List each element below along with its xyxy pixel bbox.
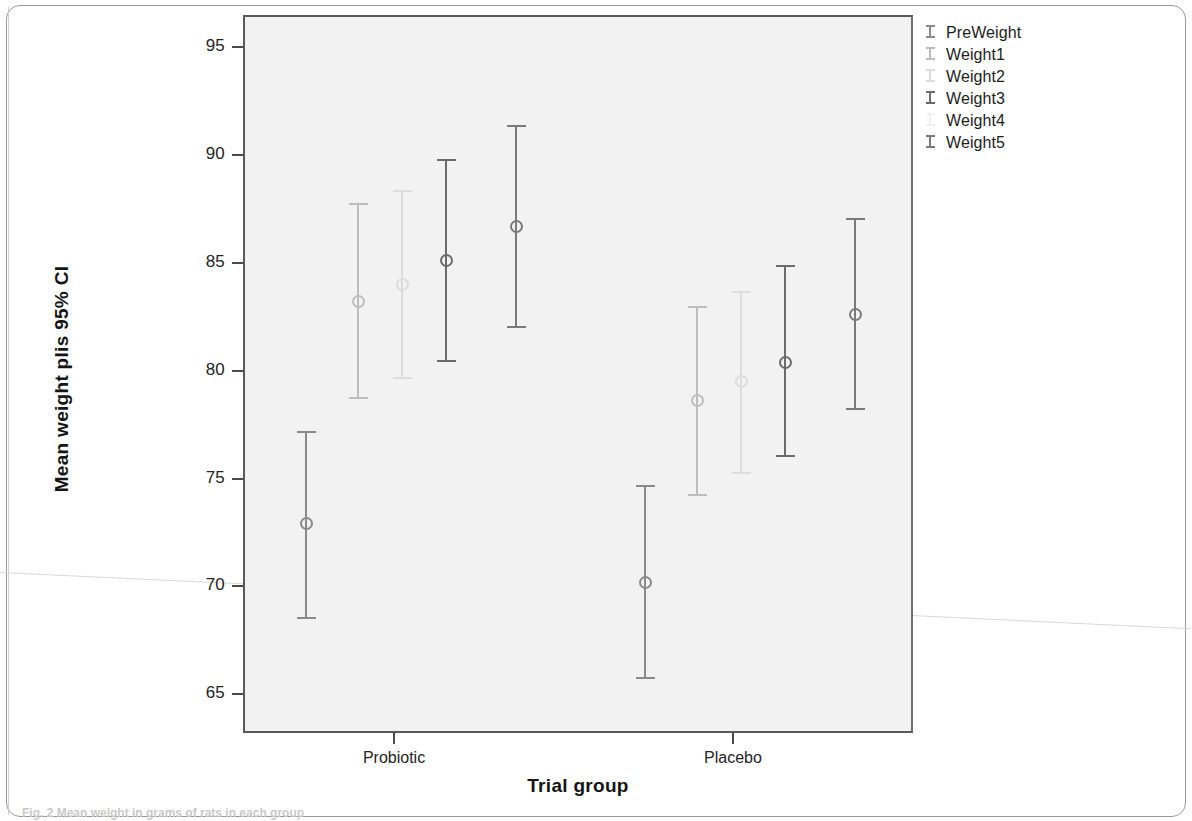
error-bar-cap-bot (846, 408, 865, 410)
error-bar-cap-bot (349, 397, 368, 399)
legend-item-label: Weight3 (946, 90, 1005, 108)
legend-item-label: Weight1 (946, 46, 1005, 64)
error-bar-cap-bot (688, 494, 707, 496)
legend-item-label: Weight4 (946, 112, 1005, 130)
x-axis-tick-label: Probiotic (314, 749, 474, 767)
error-bar-cap-bot (393, 377, 412, 379)
error-bar-weight1-placebo (685, 306, 709, 496)
legend-item-weight2[interactable]: Weight2 (922, 66, 1122, 88)
error-bar-cap-top (297, 431, 316, 433)
x-axis-tick-label: Placebo (653, 749, 813, 767)
mean-marker (639, 576, 652, 589)
error-bar-cap-bot (437, 360, 456, 362)
y-axis-tick-label: 80 (181, 360, 225, 380)
error-bar-cap-bot (636, 677, 655, 679)
x-axis-tick-mark (732, 733, 734, 744)
mean-marker (300, 517, 313, 530)
error-bar-cap-top (732, 291, 751, 293)
mean-marker (510, 220, 523, 233)
mean-marker (396, 278, 409, 291)
y-axis-title: Mean weight plis 95% CI (51, 229, 73, 529)
y-axis-tick-label: 65 (181, 683, 225, 703)
legend-item-weight5[interactable]: Weight5 (922, 132, 1122, 154)
error-bar-cap-top (636, 485, 655, 487)
error-bar-chart: Mean weight plis 95% CI Trial group 9590… (0, 0, 1192, 821)
error-bar-weight2-probiotic (390, 190, 414, 380)
error-bar-cap-top (349, 203, 368, 205)
error-bar-cap-top (507, 125, 526, 127)
figure-caption: Fig. 2 Mean weight in grams of rats in e… (22, 806, 1122, 820)
y-axis-tick-mark (232, 46, 243, 48)
legend-item-weight3[interactable]: Weight3 (922, 88, 1122, 110)
plot-area (243, 15, 913, 733)
y-axis-tick-label: 70 (181, 575, 225, 595)
legend-item-label: PreWeight (946, 24, 1021, 42)
error-bar-preweight-placebo (633, 485, 657, 679)
error-bar-cap-top (437, 159, 456, 161)
error-bar-icon (922, 135, 938, 151)
error-bar-icon (922, 25, 938, 41)
y-axis-tick-mark (232, 585, 243, 587)
y-axis-tick-label: 90 (181, 144, 225, 164)
error-bar-cap-bot (732, 472, 751, 474)
error-bar-icon (922, 69, 938, 85)
mean-marker (352, 295, 365, 308)
error-bar-cap-bot (507, 326, 526, 328)
error-bar-cap-top (776, 265, 795, 267)
error-bar-icon (922, 91, 938, 107)
legend-item-label: Weight5 (946, 134, 1005, 152)
error-bar-weight2-placebo (729, 291, 753, 474)
legend-item-label: Weight2 (946, 68, 1005, 86)
x-axis-tick-mark (393, 733, 395, 744)
mean-marker (691, 394, 704, 407)
legend: PreWeightWeight1Weight2Weight3Weight4Wei… (922, 22, 1122, 154)
error-bar-weight5-probiotic (504, 125, 528, 328)
error-bar-weight3-probiotic (434, 159, 458, 362)
error-bar-icon (922, 47, 938, 63)
y-axis-tick-mark (232, 370, 243, 372)
y-axis-tick-mark (232, 478, 243, 480)
y-axis-tick-label: 85 (181, 252, 225, 272)
y-axis-tick-mark (232, 262, 243, 264)
legend-item-weight4[interactable]: Weight4 (922, 110, 1122, 132)
error-bar-cap-bot (297, 617, 316, 619)
error-bar-cap-top (688, 306, 707, 308)
y-axis-tick-mark (232, 154, 243, 156)
error-bar-cap-bot (776, 455, 795, 457)
error-bar-weight3-placebo (773, 265, 797, 457)
error-bar-cap-top (846, 218, 865, 220)
y-axis-tick-label: 95 (181, 36, 225, 56)
mean-marker (849, 308, 862, 321)
mean-marker (779, 356, 792, 369)
legend-item-preweight[interactable]: PreWeight (922, 22, 1122, 44)
error-bar-cap-top (393, 190, 412, 192)
error-bar-weight5-placebo (843, 218, 867, 410)
y-axis-tick-mark (232, 693, 243, 695)
error-bar-preweight-probiotic (294, 431, 318, 619)
error-bar-icon (922, 113, 938, 129)
error-bar-weight1-probiotic (346, 203, 370, 399)
x-axis-title: Trial group (243, 775, 913, 797)
y-axis-tick-label: 75 (181, 468, 225, 488)
legend-item-weight1[interactable]: Weight1 (922, 44, 1122, 66)
mean-marker (440, 254, 453, 267)
mean-marker (735, 375, 748, 388)
